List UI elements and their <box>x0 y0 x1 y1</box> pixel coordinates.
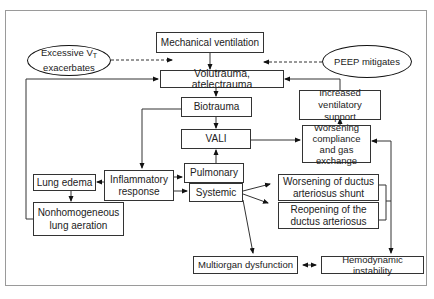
node-label: Hemodynamic instability <box>324 254 421 277</box>
node-label: Volutrauma, atelectrauma <box>163 68 281 91</box>
node-lung-edema: Lung edema <box>33 174 96 191</box>
node-mechanical-ventilation: Mechanical ventilation <box>156 32 264 53</box>
node-inflammatory-response: Inflammatory response <box>104 170 174 201</box>
node-systemic: Systemic <box>189 183 243 202</box>
node-vali: VALI <box>181 129 251 149</box>
node-label: Excessive VT exacerbates <box>41 47 97 74</box>
node-increased-ventilatory-support: Increased ventilatory support <box>299 90 381 120</box>
node-multiorgan-dysfunction: Multiorgan dysfunction <box>193 256 298 274</box>
node-label: Inflammatory response <box>107 174 171 198</box>
node-hemodynamic-instability: Hemodynamic instability <box>321 256 424 274</box>
node-excessive-vt-exacerbates: Excessive VT exacerbates <box>27 45 111 76</box>
node-label: VALI <box>206 133 227 145</box>
node-nonhomogeneous-lung-aeration: Nonhomogeneous lung aeration <box>33 202 124 236</box>
node-label: Reopening of the ductus arteriosus <box>281 204 376 228</box>
node-biotrauma: Biotrauma <box>181 97 252 117</box>
node-label: Nonhomogeneous lung aeration <box>36 206 121 232</box>
node-reopening-ductus: Reopening of the ductus arteriosus <box>278 202 379 229</box>
node-label: Mechanical ventilation <box>161 37 259 49</box>
node-label: Worsening compliance and gas exchange <box>305 122 368 166</box>
node-label: Systemic <box>196 187 237 199</box>
node-label: Biotrauma <box>194 101 240 113</box>
node-label: Pulmonary <box>190 167 238 179</box>
node-volutrauma-atelectrauma: Volutrauma, atelectrauma <box>160 70 284 88</box>
node-label: Lung edema <box>37 177 93 189</box>
node-label: Increased ventilatory support <box>302 87 378 123</box>
node-worsening-ductus-shunt: Worsening of ductus arteriosus shunt <box>278 174 379 201</box>
node-label: Worsening of ductus arteriosus shunt <box>281 176 376 200</box>
node-worsening-compliance: Worsening compliance and gas exchange <box>302 125 371 163</box>
node-label: Multiorgan dysfunction <box>198 259 293 271</box>
node-peep-mitigates: PEEP mitigates <box>322 45 412 78</box>
node-label: PEEP mitigates <box>334 56 400 68</box>
node-pulmonary: Pulmonary <box>184 163 244 183</box>
